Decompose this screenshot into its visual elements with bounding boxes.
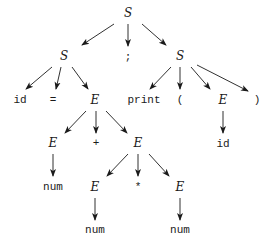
tree-edge-arrow bbox=[26, 67, 52, 89]
nonterminal-node: E bbox=[176, 181, 185, 193]
terminal-node: num bbox=[85, 225, 105, 236]
terminal-node: id bbox=[216, 139, 229, 150]
nonterminal-node: S bbox=[124, 7, 132, 19]
terminal-node: + bbox=[93, 138, 100, 149]
terminal-node: num bbox=[170, 225, 190, 236]
terminal-node: ( bbox=[177, 95, 184, 106]
tree-edge-arrow bbox=[107, 154, 128, 176]
tree-edge-arrow bbox=[106, 111, 127, 133]
terminal-node: ; bbox=[125, 52, 132, 63]
tree-edges bbox=[0, 0, 265, 244]
tree-edge-arrow bbox=[142, 24, 166, 45]
nonterminal-node: E bbox=[219, 94, 228, 106]
terminal-node: print bbox=[127, 95, 160, 106]
terminal-node: * bbox=[135, 182, 142, 193]
terminal-node: = bbox=[50, 95, 57, 106]
tree-edge-arrow bbox=[150, 67, 171, 89]
tree-edge-arrow bbox=[149, 154, 169, 176]
terminal-node: num bbox=[43, 182, 63, 193]
tree-edge-arrow bbox=[65, 111, 86, 133]
nonterminal-node: S bbox=[60, 50, 68, 62]
tree-edge-arrow bbox=[82, 24, 114, 45]
tree-edge-arrow bbox=[56, 67, 61, 89]
terminal-node: ) bbox=[254, 95, 261, 106]
nonterminal-node: E bbox=[91, 181, 100, 193]
nonterminal-node: E bbox=[134, 137, 143, 149]
nonterminal-node: E bbox=[91, 94, 100, 106]
tree-edge-arrow bbox=[197, 65, 248, 91]
nonterminal-node: E bbox=[49, 137, 58, 149]
tree-edge-arrow bbox=[72, 67, 88, 89]
nonterminal-node: S bbox=[176, 50, 184, 62]
terminal-node: id bbox=[13, 95, 26, 106]
